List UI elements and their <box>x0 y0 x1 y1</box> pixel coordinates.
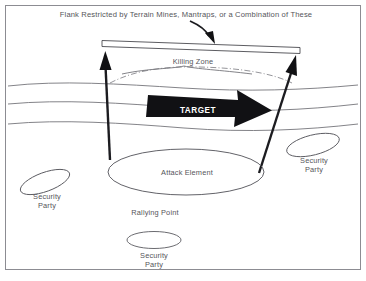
terrain-contour-line-1 <box>8 83 358 90</box>
security-party-bottom: Security Party <box>127 232 181 270</box>
security-party-left: Security Party <box>17 164 72 210</box>
security-party-right-label-line2: Party <box>305 165 323 174</box>
security-party-left-label-line2: Party <box>38 201 56 210</box>
caption-pointer-arrow <box>190 21 215 44</box>
target-movement-arrow: TARGET <box>146 90 272 127</box>
rallying-point-label: Rallying Point <box>131 208 178 217</box>
flank-barrier-bar <box>102 41 300 54</box>
attack-element-label: Attack Element <box>161 168 213 177</box>
security-party-bottom-label-line1: Security <box>140 251 168 260</box>
left-assault-arrow <box>100 51 112 160</box>
target-arrow-label: TARGET <box>180 106 216 115</box>
tactical-diagram-svg: Flank Restricted by Terrain Mines, Mantr… <box>0 0 366 281</box>
security-party-right: Security Party <box>284 129 341 174</box>
security-party-bottom-ellipse <box>127 232 181 249</box>
killing-zone-brace <box>122 66 252 74</box>
flank-restriction-caption: Flank Restricted by Terrain Mines, Mantr… <box>60 10 312 19</box>
terrain-contour-line-3 <box>8 122 358 131</box>
diagram-canvas: Flank Restricted by Terrain Mines, Mantr… <box>0 0 366 281</box>
security-party-bottom-label-line2: Party <box>145 260 163 269</box>
killing-zone-label: Killing Zone <box>173 57 213 66</box>
security-party-left-label-line1: Security <box>33 192 61 201</box>
killing-zone-arc <box>110 67 292 83</box>
security-party-right-label-line1: Security <box>300 156 328 165</box>
